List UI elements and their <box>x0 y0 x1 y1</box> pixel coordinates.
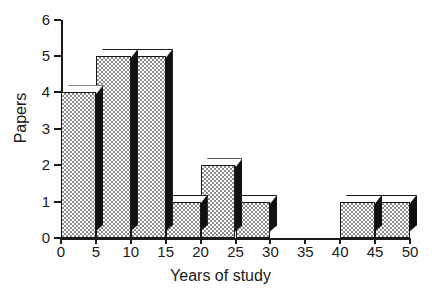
bar-side-face <box>165 49 173 232</box>
y-tick-label-0: 0 <box>0 230 50 245</box>
y-tick-label-1: 1 <box>0 194 50 209</box>
y-tick-label-6: 6 <box>0 12 50 27</box>
histogram-chart: Papers 0123456 05101520253035404550 Year… <box>0 0 441 300</box>
y-tick-label-4: 4 <box>0 84 50 99</box>
y-tick-mark <box>54 19 61 21</box>
y-tick-mark <box>54 55 61 57</box>
y-tick-label-2: 2 <box>0 157 50 172</box>
y-tick-label-5: 5 <box>0 48 50 63</box>
bar-side-face <box>95 85 103 232</box>
y-tick-mark <box>54 201 61 203</box>
bar-front-face <box>61 92 96 238</box>
y-tick-mark <box>54 128 61 130</box>
bar-0-5 <box>61 85 103 238</box>
y-tick-mark <box>54 91 61 93</box>
bar-side-face <box>130 49 138 232</box>
bar-40-45 <box>340 195 382 238</box>
y-tick-label-3: 3 <box>0 121 50 136</box>
bar-front-face <box>340 202 375 238</box>
bar-side-face <box>234 158 242 232</box>
x-tick-label-50: 50 <box>390 244 430 259</box>
x-axis-title: Years of study <box>0 268 441 284</box>
y-tick-mark <box>54 164 61 166</box>
